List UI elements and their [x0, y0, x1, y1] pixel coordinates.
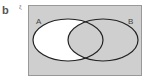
set-b-label: B — [128, 17, 133, 26]
venn-diagram: A B — [0, 0, 147, 80]
set-a-label: A — [36, 17, 42, 26]
